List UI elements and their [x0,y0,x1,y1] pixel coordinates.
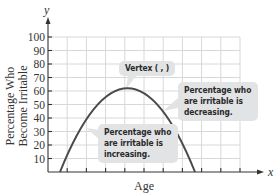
x-axis-title: Age [134,179,154,193]
x-axis [48,168,258,172]
increasing-line3: increasing. [104,149,172,160]
y-axis [48,22,52,172]
y-axis-title: Percentage Who Become Irritable [3,66,30,147]
x-axis-symbol: x [267,165,274,179]
y-tick-70: 70 [34,72,46,84]
y-tick-30: 30 [34,126,46,138]
decreasing-line2: are irritable is [184,96,252,107]
decreasing-line1: Percentage who [184,85,252,96]
y-tick-100: 100 [28,31,46,43]
y-axis-arrow-icon [46,17,51,24]
y-tick-80: 80 [34,58,46,70]
decreasing-line3: decreasing. [184,107,252,118]
vertex-callout-text: Vertex ( , ) [125,63,169,73]
increasing-callout: Percentage who are irritable is increasi… [98,124,178,163]
y-tick-50: 50 [34,99,46,111]
y-tick-90: 90 [34,45,46,57]
y-axis-title-line1: Percentage Who [3,67,17,146]
y-axis-title-line2: Become Irritable [16,66,30,147]
y-tick-10: 10 [34,153,46,165]
increasing-line1: Percentage who [104,127,172,138]
y-tick-60: 60 [34,85,46,97]
x-axis-arrow-icon [257,170,264,175]
y-tick-20: 20 [34,139,46,151]
y-axis-symbol: y [43,3,50,17]
vertex-callout: Vertex ( , ) [119,61,175,76]
increasing-line2: are irritable is [104,138,172,149]
y-tick-labels: 100 90 80 70 60 50 40 30 20 10 [28,31,46,165]
y-tick-40: 40 [34,112,46,124]
decreasing-callout: Percentage who are irritable is decreasi… [178,82,258,121]
